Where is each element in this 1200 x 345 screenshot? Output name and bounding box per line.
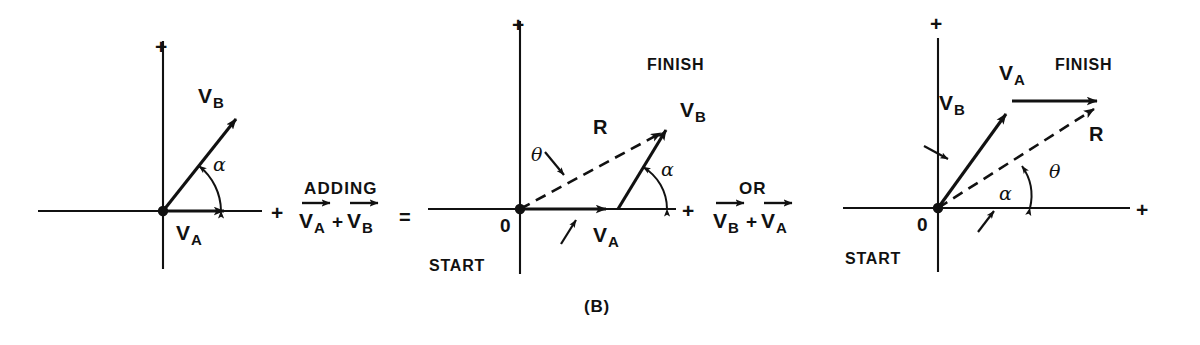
panel-b-theta-label: θ	[531, 145, 543, 164]
panel-c-origin-label: 0	[917, 215, 928, 234]
panel-a-y-plus-label: +	[155, 36, 168, 57]
panel-b-v-a-subscript: A	[608, 233, 619, 250]
panel-b-start-label: START	[429, 258, 485, 274]
panel-c-alpha-label: α	[999, 184, 1012, 203]
vector-addition-figure: + + VA VB α ADDING VA + VB = + + 0 START…	[0, 0, 1200, 345]
panel-c-theta-arc	[1022, 166, 1031, 208]
adding-first-term: VA	[299, 210, 325, 235]
panel-c-v-b-letter: V	[939, 91, 954, 114]
panel-a-axes	[38, 41, 262, 269]
adding-equals-operator: =	[399, 207, 411, 227]
panel-c-resultant-label: R	[1089, 124, 1104, 144]
panel-b-resultant-label: R	[593, 117, 608, 137]
adding-plus-operator: +	[332, 212, 344, 231]
adding-second-term: VB	[347, 210, 373, 235]
panel-a-v-a-label: VA	[176, 222, 202, 247]
panel-c-v-b-leader	[924, 146, 948, 159]
adding-first-term-letter: V	[299, 209, 314, 232]
panel-b-v-b-letter: V	[680, 98, 695, 121]
panel-c-theta-label: θ	[1049, 162, 1061, 181]
panel-a-v-b-subscript: B	[213, 94, 224, 111]
or-first-term-letter: V	[713, 209, 728, 232]
panel-c-start-label: START	[845, 251, 901, 267]
figure-caption: (B)	[584, 298, 610, 315]
panel-c-x-plus-label: +	[1136, 199, 1149, 220]
panel-b-theta-leader	[545, 152, 564, 175]
panel-b-alpha-label: α	[661, 160, 674, 179]
panel-c-finish-label: FINISH	[1055, 57, 1112, 73]
panel-c-vectors	[924, 101, 1097, 232]
panel-b-x-plus-label: +	[682, 200, 695, 221]
panel-a-v-a-subscript: A	[191, 231, 202, 248]
panel-b-axes	[428, 21, 676, 274]
panel-c-alpha-leader	[978, 211, 994, 232]
panel-b-v-b-label: VB	[680, 99, 706, 124]
panel-b-y-plus-label: +	[512, 14, 525, 35]
panel-b-v-b-subscript: B	[695, 108, 706, 125]
or-second-term-subscript: A	[776, 219, 787, 236]
or-plus-operator: +	[746, 212, 758, 231]
panel-b-v-a-label: VA	[593, 224, 619, 249]
panel-c-resultant-arrow	[938, 109, 1094, 208]
panel-b-v-b-arrow	[618, 130, 666, 209]
panel-c-v-b-label: VB	[939, 92, 965, 117]
panel-a-v-a-letter: V	[176, 221, 191, 244]
adding-first-term-subscript: A	[314, 219, 325, 236]
panel-b-finish-label: FINISH	[647, 57, 704, 73]
panel-a-x-plus-label: +	[271, 202, 284, 223]
panel-a-v-b-letter: V	[198, 84, 213, 107]
panel-c-axes	[843, 38, 1130, 272]
panel-c-v-b-subscript: B	[954, 101, 965, 118]
or-label: OR	[739, 180, 767, 197]
panel-b-v-a-leader	[561, 220, 576, 244]
adding-label: ADDING	[304, 180, 378, 197]
or-second-term: VA	[761, 210, 787, 235]
panel-c-v-a-letter: V	[999, 61, 1014, 84]
panel-b-origin-label: 0	[500, 216, 511, 235]
panel-b-v-a-letter: V	[593, 223, 608, 246]
panel-c-v-a-subscript: A	[1014, 71, 1025, 88]
or-first-term-subscript: B	[728, 219, 739, 236]
or-first-term: VB	[713, 210, 739, 235]
or-second-term-letter: V	[761, 209, 776, 232]
panel-c-v-a-label: VA	[999, 62, 1025, 87]
adding-second-term-letter: V	[347, 209, 362, 232]
panel-c-y-plus-label: +	[930, 13, 943, 34]
panel-a-alpha-label: α	[213, 155, 226, 174]
adding-second-term-subscript: B	[362, 219, 373, 236]
panel-a-v-b-label: VB	[198, 85, 224, 110]
figure-canvas	[0, 0, 1200, 345]
panel-c-v-b-arrow	[938, 114, 1006, 208]
